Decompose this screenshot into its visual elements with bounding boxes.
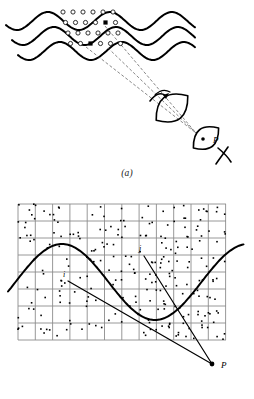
panel-a: P (a) bbox=[0, 0, 254, 192]
point-p-label: P bbox=[220, 360, 227, 370]
eye-group bbox=[150, 90, 231, 164]
panel-a-graphic: P bbox=[0, 0, 254, 192]
panel-b-graphic: P i j bbox=[0, 192, 254, 399]
figure-root: P (a) P i j (b) bbox=[0, 0, 254, 399]
panel-b: P i j (b) bbox=[0, 192, 254, 399]
ray-i-label: i bbox=[63, 270, 65, 279]
panel-a-caption: (a) bbox=[0, 168, 254, 178]
point-p-label: P bbox=[212, 135, 219, 145]
wavefront-group bbox=[6, 12, 195, 60]
ray-j-label: j bbox=[138, 244, 142, 253]
point-p-marker bbox=[210, 362, 215, 367]
